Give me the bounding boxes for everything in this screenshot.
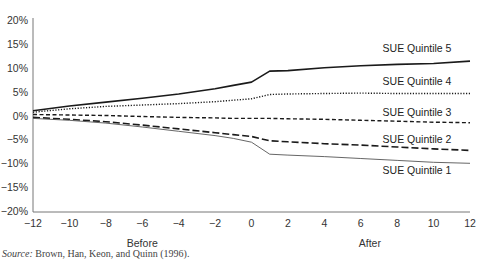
y-tick-label: −5%: [7, 133, 28, 145]
x-tick-label: −8: [100, 217, 112, 229]
y-tick-label: 15%: [7, 38, 28, 50]
series-label-sue-quintile-3: SUE Quintile 3: [383, 106, 452, 118]
x-tick-label: 8: [394, 217, 400, 229]
y-tick-label: −15%: [1, 181, 28, 193]
series-label-sue-quintile-1: SUE Quintile 1: [383, 164, 452, 176]
x-axis-tick-labels: −12−10−8−6−4−2024681012: [24, 217, 476, 229]
y-tick-label: 0%: [13, 110, 28, 122]
source-note: Source: Brown, Han, Keon, and Quinn (199…: [2, 248, 189, 259]
series-label-sue-quintile-2: SUE Quintile 2: [383, 133, 452, 145]
x-tick-label: −2: [209, 217, 221, 229]
y-tick-label: −20%: [1, 205, 28, 217]
source-text: Brown, Han, Keon, and Quinn (1996).: [33, 248, 190, 259]
x-tick-label: −4: [173, 217, 185, 229]
series-label-sue-quintile-4: SUE Quintile 4: [383, 75, 452, 87]
x-tick-label: 2: [285, 217, 291, 229]
group-label-after: After: [359, 237, 382, 249]
y-tick-label: 20%: [7, 14, 28, 26]
series-label-sue-quintile-5: SUE Quintile 5: [383, 42, 452, 54]
x-tick-label: 4: [321, 217, 327, 229]
y-tick-label: −10%: [1, 157, 28, 169]
x-tick-label: 6: [358, 217, 364, 229]
x-tick-label: 12: [464, 217, 476, 229]
line-chart-plot: 20%15%10%5%0%−5%−10%−15%−20% −12−10−8−6−…: [0, 0, 477, 264]
y-tick-label: 10%: [7, 62, 28, 74]
x-tick-label: −6: [136, 217, 148, 229]
x-tick-label: 0: [249, 217, 255, 229]
source-prefix: Source:: [2, 248, 33, 259]
y-axis-tick-labels: 20%15%10%5%0%−5%−10%−15%−20%: [1, 14, 28, 217]
x-tick-label: 10: [428, 217, 440, 229]
x-tick-label: −10: [61, 217, 79, 229]
x-tick-label: −12: [24, 217, 42, 229]
chart: 20%15%10%5%0%−5%−10%−15%−20% −12−10−8−6−…: [0, 0, 477, 264]
y-tick-label: 5%: [13, 86, 28, 98]
